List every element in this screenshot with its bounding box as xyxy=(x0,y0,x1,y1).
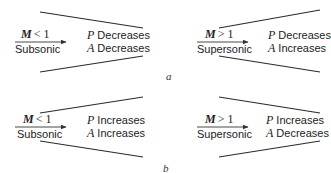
panel-a-subsonic-nozzle: M< 1 Subsonic PDecreases ADecreases xyxy=(15,12,150,72)
upper-wall xyxy=(219,97,320,113)
panel-a: M< 1 Subsonic PDecreases ADecreases M> 1… xyxy=(15,10,331,82)
lower-wall xyxy=(219,56,320,72)
panel-b-supersonic-diffuser: M> 1 Supersonic PIncreases ADecreases xyxy=(197,97,329,157)
upper-wall xyxy=(219,10,320,28)
upper-wall xyxy=(40,12,143,28)
flow-regime: Supersonic xyxy=(197,128,253,140)
panel-label-b: b xyxy=(163,162,169,173)
mach-condition: M< 1 xyxy=(22,112,51,126)
pressure-change: PIncreases xyxy=(86,113,146,127)
panel-label-a: a xyxy=(166,70,172,82)
pressure-change: PIncreases xyxy=(265,113,325,127)
panel-a-supersonic-nozzle: M> 1 Supersonic PDecreases AIncreases xyxy=(197,10,331,72)
flow-regime: Supersonic xyxy=(197,43,253,55)
area-change: AIncreases xyxy=(86,126,146,140)
nozzle-diffuser-diagram: M< 1 Subsonic PDecreases ADecreases M> 1… xyxy=(0,0,331,173)
mach-condition: M> 1 xyxy=(204,112,233,126)
pressure-change: PDecreases xyxy=(86,28,150,42)
mach-condition: M> 1 xyxy=(204,27,233,41)
flow-regime: Subsonic xyxy=(15,43,61,55)
lower-wall xyxy=(219,141,320,157)
panel-b-subsonic-diffuser: M< 1 Subsonic PIncreases AIncreases xyxy=(15,97,146,157)
area-change: AIncreases xyxy=(267,41,327,55)
flow-regime: Subsonic xyxy=(17,128,63,140)
pressure-change: PDecreases xyxy=(267,28,331,42)
area-change: ADecreases xyxy=(86,41,150,55)
mach-condition: M< 1 xyxy=(20,27,49,41)
area-change: ADecreases xyxy=(265,126,329,140)
panel-b: M< 1 Subsonic PIncreases AIncreases M> 1… xyxy=(15,97,329,173)
lower-wall xyxy=(40,56,143,72)
lower-wall xyxy=(40,141,143,157)
upper-wall xyxy=(40,97,143,113)
